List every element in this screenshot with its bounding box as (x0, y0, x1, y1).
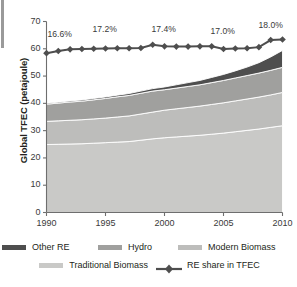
legend-item-hydro[interactable]: Hydro (98, 242, 178, 252)
percentage-annotation: 17.0% (211, 26, 235, 36)
diamond-marker-icon (185, 43, 192, 50)
percentage-annotation: 16.6% (48, 29, 72, 39)
diamond-marker-icon (55, 48, 62, 55)
percentage-annotation: 18.0% (259, 20, 283, 30)
diamond-marker-icon (43, 50, 50, 57)
diamond-marker-icon (208, 43, 215, 50)
legend-swatch-traditional-biomass (39, 263, 63, 268)
legend-label-hydro: Hydro (128, 242, 152, 252)
y-tick-label: 0 (19, 207, 41, 217)
y-tick-label: 20 (19, 152, 41, 162)
percentage-annotation: 17.4% (152, 24, 176, 34)
y-tick-label: 40 (19, 97, 41, 107)
diamond-marker-icon (197, 43, 204, 50)
diamond-marker-icon (232, 45, 239, 52)
legend-label-other-re: Other RE (32, 242, 70, 252)
diamond-marker-icon (149, 41, 156, 48)
diamond-marker-icon (126, 45, 133, 52)
x-tick-label: 2000 (145, 218, 185, 228)
chart-figure: Global TFEC (petajoule) 010203040506070 … (0, 0, 296, 287)
diamond-marker-icon (220, 46, 227, 53)
diamond-marker-icon (244, 45, 251, 52)
x-tick-label: 1995 (86, 218, 126, 228)
legend-item-modern-biomass[interactable]: Modern Biomass (178, 242, 294, 252)
diamond-marker-icon (156, 264, 182, 274)
legend-swatch-modern-biomass (178, 245, 202, 250)
diamond-marker-icon (114, 45, 121, 52)
y-tick-label: 60 (19, 43, 41, 53)
percentage-annotation: 17.2% (93, 24, 117, 34)
diamond-marker-icon (67, 46, 74, 53)
y-tick-label: 30 (19, 125, 41, 135)
diamond-marker-icon (279, 36, 286, 43)
legend-row-1: Other RE Hydro Modern Biomass (0, 242, 296, 252)
legend-item-other-re[interactable]: Other RE (2, 242, 98, 252)
legend-swatch-other-re (2, 245, 26, 250)
legend-label-traditional-biomass: Traditional Biomass (69, 260, 148, 270)
diamond-marker-icon (161, 43, 168, 50)
legend-row-2: Traditional Biomass RE share in TFEC (0, 260, 296, 270)
y-tick-label: 50 (19, 70, 41, 80)
x-tick-label: 2005 (204, 218, 244, 228)
legend-label-modern-biomass: Modern Biomass (208, 242, 276, 252)
y-tick-label: 10 (19, 179, 41, 189)
y-tick-label: 70 (19, 16, 41, 26)
diamond-marker-icon (102, 45, 109, 52)
diamond-marker-icon (79, 46, 86, 53)
legend-item-re-share[interactable]: RE share in TFEC (148, 260, 296, 270)
x-tick-label: 2010 (263, 218, 297, 228)
diamond-marker-icon (173, 43, 180, 50)
legend-label-re-share: RE share in TFEC (187, 260, 260, 270)
legend-swatch-hydro (98, 245, 122, 250)
diamond-marker-icon (138, 45, 145, 52)
legend: Other RE Hydro Modern Biomass Traditiona… (0, 242, 296, 270)
diamond-marker-icon (90, 45, 97, 52)
x-tick-label: 1990 (27, 218, 67, 228)
legend-item-traditional-biomass[interactable]: Traditional Biomass (0, 260, 148, 270)
legend-line-marker-re-share (156, 260, 182, 270)
